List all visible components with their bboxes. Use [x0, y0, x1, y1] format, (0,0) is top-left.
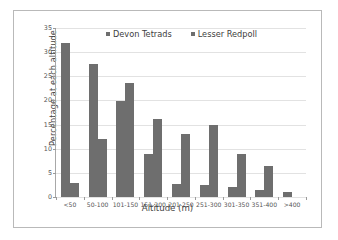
x-tick-mark — [139, 197, 140, 200]
bar-group — [250, 28, 278, 197]
bar — [153, 119, 162, 197]
y-tick-label: 20 — [44, 96, 52, 104]
bar-group — [112, 28, 140, 197]
bar — [228, 187, 237, 197]
bar — [98, 139, 107, 197]
x-tick-mark — [56, 197, 57, 200]
x-tick-mark — [223, 197, 224, 200]
y-tick-label: 15 — [44, 121, 52, 129]
bar — [209, 125, 218, 197]
x-tick-mark — [250, 197, 251, 200]
bar — [172, 184, 181, 197]
y-tick-label: 30 — [44, 48, 52, 56]
figure-canvas: Percentage at each altitude Devon Tetrad… — [0, 0, 338, 240]
bar-group — [278, 28, 306, 197]
x-tick-mark — [278, 197, 279, 200]
bar — [89, 64, 98, 197]
bar-group — [223, 28, 251, 197]
x-tick-mark — [84, 197, 85, 200]
y-tick-label: 0 — [48, 193, 52, 201]
bars-group — [56, 28, 306, 197]
bar-group — [167, 28, 195, 197]
bar — [144, 154, 153, 197]
chart-frame: Percentage at each altitude Devon Tetrad… — [13, 10, 322, 228]
bar — [70, 183, 79, 197]
y-tick-label: 10 — [44, 145, 52, 153]
bar — [181, 134, 190, 197]
bar-group — [139, 28, 167, 197]
x-tick-mark — [112, 197, 113, 200]
x-tick-mark — [195, 197, 196, 200]
bar — [200, 185, 209, 197]
bar-group — [56, 28, 84, 197]
bar-group — [84, 28, 112, 197]
bar — [264, 166, 273, 197]
bar — [125, 83, 134, 197]
bar — [237, 154, 246, 197]
x-tick-mark — [167, 197, 168, 200]
y-tick-label: 25 — [44, 72, 52, 80]
y-tick-label: 35 — [44, 24, 52, 32]
x-axis-title: Altitude (m) — [14, 203, 321, 213]
bar — [255, 190, 264, 197]
bar-group — [195, 28, 223, 197]
bar — [61, 43, 70, 198]
plot-area: 05101520253035 <5050-100101-150151-20020… — [56, 28, 306, 197]
bar — [116, 101, 125, 197]
x-tick-mark — [306, 197, 307, 200]
y-tick-label: 5 — [48, 169, 52, 177]
